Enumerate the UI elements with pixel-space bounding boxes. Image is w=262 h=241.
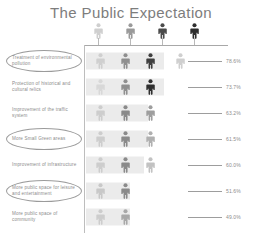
- person-icon-1: [96, 53, 105, 69]
- value-label: 63.2%: [226, 110, 241, 116]
- person-icon-3: [146, 79, 155, 95]
- person-icon-4: [176, 53, 185, 69]
- scale-person-icon-4: [190, 23, 199, 39]
- chart-row: More Small Green areas61.5%: [0, 126, 262, 152]
- person-icon-2: [121, 79, 130, 95]
- person-icon-1: [96, 131, 105, 147]
- person-icon-1: [96, 209, 105, 225]
- person-icon-2: [121, 157, 130, 173]
- person-icon-1: [96, 79, 105, 95]
- person-icon-2: [121, 131, 130, 147]
- row-label: Protection of historical and cultural re…: [12, 81, 78, 93]
- row-label: More public space for leisure and entert…: [12, 185, 78, 197]
- scale-person-icon-3: [158, 23, 167, 39]
- person-icon-2: [121, 105, 130, 121]
- row-label: Treatment of environmental pollution: [12, 55, 78, 67]
- chart-rows: Treatment of environmental pollution78.6…: [0, 48, 262, 230]
- leader-line: [188, 217, 222, 218]
- person-icon-2: [121, 209, 130, 225]
- chart-row: Improvement of infrastructure60.0%: [0, 152, 262, 178]
- leader-line: [188, 113, 222, 114]
- leader-line: [188, 139, 222, 140]
- leader-line: [188, 191, 222, 192]
- person-icon-3: [146, 53, 155, 69]
- person-icon-3: [146, 157, 155, 173]
- chart-row: More public space for leisure and entert…: [0, 178, 262, 204]
- value-label: 78.6%: [226, 58, 241, 64]
- person-icon-1: [96, 183, 105, 199]
- chart-row: Improvement of the traffic system63.2%: [0, 100, 262, 126]
- row-label: Improvement of the traffic system: [12, 107, 78, 119]
- row-label: More public space of community: [12, 211, 78, 223]
- person-icon-2: [121, 53, 130, 69]
- person-icon-1: [96, 157, 105, 173]
- person-icon-3: [146, 105, 155, 121]
- figure-scale-legend: [88, 20, 218, 46]
- value-label: 51.6%: [226, 188, 241, 194]
- chart-title: The Public Expectation: [0, 4, 262, 21]
- person-icon-3: [146, 131, 155, 147]
- person-icon-2: [121, 183, 130, 199]
- value-label: 61.5%: [226, 136, 241, 142]
- scale-person-icon-2: [126, 23, 135, 39]
- row-label: More Small Green areas: [12, 136, 78, 142]
- leader-line: [188, 61, 222, 62]
- value-label: 49.0%: [226, 214, 241, 220]
- public-expectation-chart: The Public Expectation Treatment of envi…: [0, 0, 262, 241]
- leader-line: [188, 165, 222, 166]
- value-label: 73.7%: [226, 84, 241, 90]
- row-label: Improvement of infrastructure: [12, 162, 78, 168]
- scale-person-icon-1: [94, 23, 103, 39]
- chart-row: More public space of community49.0%: [0, 204, 262, 230]
- person-icon-1: [96, 105, 105, 121]
- chart-row: Protection of historical and cultural re…: [0, 74, 262, 100]
- chart-row: Treatment of environmental pollution78.6…: [0, 48, 262, 74]
- value-label: 60.0%: [226, 162, 241, 168]
- horizontal-axis-line: [84, 45, 228, 46]
- value-bar: [86, 157, 144, 174]
- leader-line: [188, 87, 222, 88]
